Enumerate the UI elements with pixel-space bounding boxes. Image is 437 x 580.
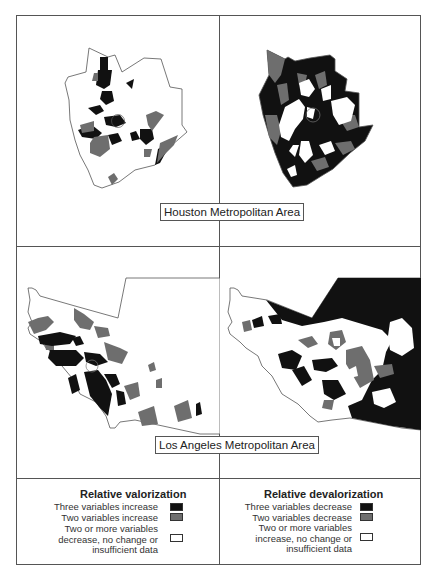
legend-devalorization-none-line-3: insufficient data bbox=[212, 544, 352, 555]
legend-valorization-item-three: Three variables increase bbox=[18, 502, 158, 513]
swatch-no-change-icon bbox=[360, 533, 373, 541]
legend-valorization: Relative valorization Three variables in… bbox=[18, 480, 218, 564]
legend-valorization-item-two: Two variables increase bbox=[18, 513, 158, 524]
horizontal-divider-houston-la bbox=[16, 246, 421, 247]
swatch-two-variables-icon bbox=[360, 513, 373, 521]
la-devalorization-map bbox=[222, 270, 421, 440]
horizontal-divider-legend bbox=[16, 478, 421, 479]
legend-valorization-item-none: Two or more variables decrease, no chang… bbox=[18, 524, 158, 556]
la-valorization-map bbox=[20, 270, 220, 440]
legend-devalorization-item-three: Three variables decrease bbox=[212, 502, 352, 513]
swatch-three-variables-icon bbox=[170, 503, 183, 511]
legend-devalorization-title: Relative devalorization bbox=[264, 488, 383, 500]
swatch-three-variables-icon bbox=[360, 503, 373, 511]
houston-area-label: Houston Metropolitan Area bbox=[160, 203, 304, 221]
swatch-two-variables-icon bbox=[170, 513, 183, 521]
legend-devalorization-none-line-1: Two or more variables bbox=[212, 523, 352, 534]
houston-valorization-map bbox=[60, 45, 190, 195]
legend-valorization-none-line-1: Two or more variables bbox=[18, 524, 158, 535]
la-area-label: Los Angeles Metropolitan Area bbox=[155, 436, 319, 454]
swatch-no-change-icon bbox=[170, 534, 183, 542]
legend-devalorization: Relative devalorization Three variables … bbox=[222, 480, 422, 564]
legend-valorization-title: Relative valorization bbox=[80, 488, 186, 500]
legend-valorization-none-line-3: insufficient data bbox=[18, 545, 158, 556]
legend-devalorization-item-none: Two or more variables increase, no chang… bbox=[212, 523, 352, 555]
houston-devalorization-map bbox=[255, 45, 390, 195]
